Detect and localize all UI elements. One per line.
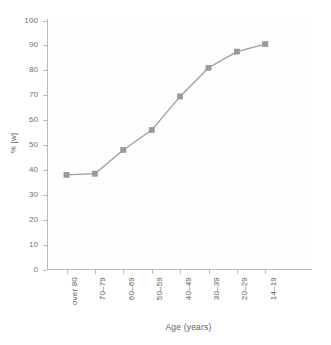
x-axis-tick-label: 40–49: [184, 277, 193, 300]
x-axis-tick: [152, 270, 153, 274]
y-axis-tick: [43, 270, 47, 271]
y-axis-tick-label: 50: [0, 141, 38, 149]
x-axis-tick-label: 60–69: [127, 277, 136, 300]
y-axis-tick: [43, 170, 47, 171]
x-axis-tick: [123, 270, 124, 274]
x-axis-tick-label: over 80: [70, 277, 79, 305]
y-axis-line: [47, 19, 48, 270]
line-chart: 1009080706050403020100 over 8070–7960–69…: [0, 0, 331, 345]
y-axis-tick: [43, 120, 47, 121]
y-axis-tick-label: 20: [0, 216, 38, 224]
y-axis-tick-label: 80: [0, 66, 38, 74]
y-axis-title: % [w]: [9, 133, 18, 154]
y-axis-tick-label: 60: [0, 116, 38, 124]
y-axis-tick: [43, 245, 47, 246]
x-axis-tick: [67, 270, 68, 274]
x-axis-tick: [180, 270, 181, 274]
y-axis-tick-label: 100: [0, 17, 38, 25]
y-axis-tick-label: 90: [0, 41, 38, 49]
plot-area: [47, 19, 312, 270]
x-axis-tick-label: 50–59: [155, 277, 164, 300]
x-axis-tick: [95, 270, 96, 274]
y-axis-tick: [43, 145, 47, 146]
x-axis-tick: [237, 270, 238, 274]
x-axis-tick: [265, 270, 266, 274]
y-axis-tick: [43, 195, 47, 196]
x-axis-tick-label: 14–19: [269, 277, 278, 300]
y-axis-tick-label: 70: [0, 91, 38, 99]
y-axis-tick: [43, 21, 47, 22]
plot-background-texture: [47, 19, 312, 270]
x-axis-tick-label: 70–79: [98, 277, 107, 300]
y-axis-tick-label: 30: [0, 191, 38, 199]
x-axis-tick-label: 30–39: [212, 277, 221, 300]
y-axis-tick-label: 40: [0, 166, 38, 174]
y-axis-tick: [43, 45, 47, 46]
y-axis-tick: [43, 70, 47, 71]
x-axis-title: Age (years): [0, 322, 331, 332]
y-axis-tick-label: 0: [0, 266, 38, 274]
y-axis-tick: [43, 95, 47, 96]
y-axis-tick-label: 10: [0, 241, 38, 249]
x-axis-tick: [209, 270, 210, 274]
x-axis-tick-label: 20–29: [240, 277, 249, 300]
y-axis-tick: [43, 220, 47, 221]
